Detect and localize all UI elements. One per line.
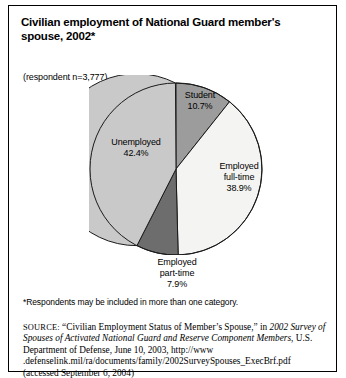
pie-label-fulltime-name2: full-time: [224, 172, 255, 182]
pie-label-employed-full-time: Employed full-time 38.9%: [204, 161, 274, 194]
pie-label-fulltime-value: 38.9%: [226, 183, 251, 193]
pie-label-unemployed: Unemployed 42.4%: [94, 137, 178, 159]
pie-label-fulltime-name: Employed: [219, 161, 258, 171]
source-label: SOURCE:: [23, 323, 60, 332]
source-text-part1: “Civilian Employment Status of Member’s …: [60, 322, 270, 332]
pie-label-parttime-value: 7.9%: [167, 279, 187, 289]
pie-label-student-name: Student: [185, 90, 215, 100]
figure-panel: Civilian employment of National Guard me…: [8, 5, 337, 372]
pie-chart: Student 10.7% Employed full-time 38.9% U…: [9, 6, 336, 296]
pie-label-student: Student 10.7%: [172, 90, 228, 112]
pie-label-unemployed-name: Unemployed: [111, 137, 161, 147]
footnote: *Respondents may be included in more tha…: [23, 297, 323, 308]
pie-label-parttime-name2: part-time: [160, 268, 195, 278]
pie-label-student-value: 10.7%: [187, 101, 212, 111]
pie-label-parttime-name: Employed: [157, 257, 196, 267]
source-citation: SOURCE: “Civilian Employment Status of M…: [23, 322, 327, 378]
pie-label-unemployed-value: 42.4%: [123, 148, 148, 158]
pie-label-employed-part-time: Employed part-time 7.9%: [134, 257, 220, 290]
